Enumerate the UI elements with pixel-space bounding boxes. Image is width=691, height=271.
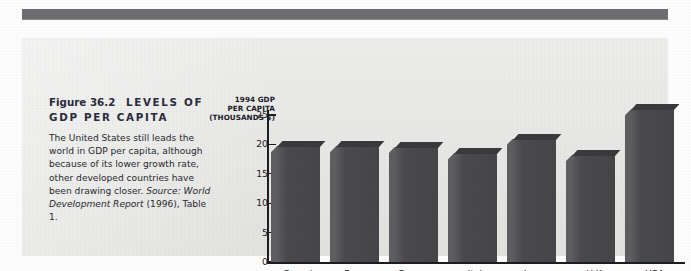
bar-left-face	[271, 146, 277, 262]
bar-top-face	[631, 104, 679, 110]
y-tick-label-10: 10	[244, 197, 268, 208]
bar-top-face	[454, 148, 502, 154]
figure-caption: Figure 36.2 LEVELS OF GDP PER CAPITA The…	[49, 95, 212, 224]
bar-germany	[389, 147, 448, 262]
y-tick-label-5: 5	[244, 227, 268, 238]
y-tick-label-20: 20	[244, 138, 268, 149]
bar-rect	[395, 147, 438, 262]
bar-italy	[448, 153, 507, 262]
bar-left-face	[330, 146, 336, 262]
figure-panel: Figure 36.2 LEVELS OF GDP PER CAPITA The…	[22, 38, 668, 256]
bar-rect	[572, 155, 615, 262]
figure-caption-body: The United States still leads the world …	[49, 132, 212, 224]
y-tick-label-25: 25	[244, 109, 268, 120]
top-rule-divider	[22, 9, 668, 19]
y-tick-label-0: 0	[244, 256, 268, 267]
bar-top-face	[572, 150, 620, 156]
figure-caption-title: Figure 36.2 LEVELS OF GDP PER CAPITA	[49, 95, 212, 124]
bar-rect	[336, 146, 379, 262]
y-tick-label-15: 15	[244, 168, 268, 179]
bar-france	[330, 146, 389, 262]
bar-left-face	[566, 155, 572, 262]
bar-chart: 1994 GDP PER CAPITA (THOUSANDS $) 051015…	[253, 76, 690, 271]
bar-uk	[566, 155, 625, 262]
figure-number: Figure 36.2	[49, 96, 115, 108]
bar-group	[271, 76, 685, 264]
bar-rect	[454, 153, 497, 262]
bar-left-face	[507, 139, 513, 262]
figure-headline-line2: GDP PER CAPITA	[49, 111, 168, 123]
bar-left-face	[625, 109, 631, 262]
bar-rect	[513, 139, 556, 262]
bar-top-face	[277, 141, 325, 147]
y-axis-title-line1: 1994 GDP	[235, 95, 275, 104]
y-axis-line	[267, 110, 269, 264]
bar-usa	[625, 109, 684, 262]
bar-left-face	[389, 147, 395, 262]
bar-top-face	[395, 142, 443, 148]
bar-top-face	[336, 141, 384, 147]
bar-japan	[507, 139, 566, 262]
bar-top-face	[513, 134, 561, 140]
bar-canada	[271, 146, 330, 262]
bar-rect	[631, 109, 674, 262]
figure-page: Figure 36.2 LEVELS OF GDP PER CAPITA The…	[0, 0, 691, 271]
bar-left-face	[448, 153, 454, 262]
bar-rect	[277, 146, 320, 262]
